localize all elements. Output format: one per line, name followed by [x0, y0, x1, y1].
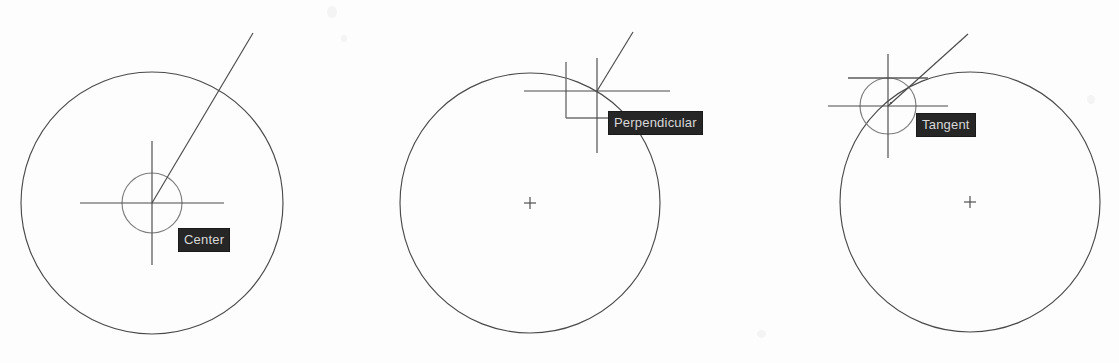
crosshair-cursor-2: [524, 58, 670, 153]
cad-drawing-svg: [0, 0, 1119, 363]
snap-tooltip-perpendicular: Perpendicular: [608, 111, 703, 135]
rubber-band-line-3: [888, 34, 968, 106]
panel-perpendicular-snap: [400, 32, 670, 333]
drawing-canvas: Center Perpendicular Tangent: [0, 0, 1119, 363]
rubber-band-line-1: [152, 33, 253, 203]
snap-tooltip-tangent: Tangent: [916, 113, 976, 137]
panel-tangent-snap: [828, 34, 1100, 332]
rubber-band-line-2: [597, 32, 633, 91]
center-mark-2: [524, 197, 536, 209]
panel-center-snap: [21, 33, 283, 334]
center-mark-3: [964, 196, 976, 208]
snap-tooltip-center: Center: [178, 228, 230, 252]
